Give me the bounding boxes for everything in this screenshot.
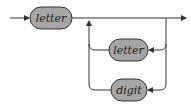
loop-left-path (89, 21, 111, 90)
node-digit: digit (111, 79, 147, 101)
node-letter-main-label: letter (36, 12, 67, 25)
railroad-diagram: letter letter digit (0, 0, 191, 108)
node-letter-loop: letter (109, 39, 148, 61)
node-letter-loop-label: letter (113, 44, 144, 57)
loop-right-letter-path (149, 44, 166, 50)
node-letter-main: letter (30, 7, 72, 29)
loop-left-letter-path (89, 44, 109, 50)
loop-right-path (148, 18, 166, 90)
node-digit-label: digit (116, 84, 142, 97)
